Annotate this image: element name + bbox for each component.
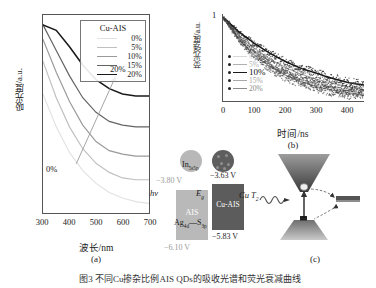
- legend-swatch-icon: [233, 64, 247, 65]
- absorption-curve-0pct: [43, 94, 149, 203]
- decay-data-point: [331, 74, 332, 75]
- decay-data-point: [227, 22, 228, 23]
- decay-data-point: [329, 81, 330, 82]
- decay-data-point: [279, 56, 280, 57]
- decay-data-point: [251, 46, 252, 47]
- decay-data-point: [319, 89, 320, 90]
- decay-data-point: [309, 74, 310, 75]
- band-gap-index: g: [201, 194, 204, 200]
- decay-data-point: [340, 90, 341, 91]
- decay-data-point: [311, 81, 312, 82]
- decay-data-point: [337, 92, 338, 93]
- decay-data-point: [248, 49, 249, 50]
- decay-data-point: [327, 88, 328, 89]
- legend-swatch-icon: [233, 72, 247, 73]
- decay-data-point: [236, 36, 237, 37]
- decay-data-point: [358, 93, 359, 94]
- decay-data-point: [285, 79, 286, 80]
- decay-data-point: [326, 77, 327, 78]
- decay-data-point: [332, 94, 333, 95]
- decay-data-point: [278, 62, 279, 63]
- decay-data-point: [293, 70, 294, 71]
- decay-data-point: [355, 98, 356, 99]
- decay-data-point: [362, 86, 363, 87]
- decay-data-point: [333, 88, 334, 89]
- decay-data-point: [319, 73, 320, 74]
- panel-a-xtick-1: 400: [63, 217, 76, 227]
- panel-c-tag: (c): [254, 254, 376, 264]
- decay-data-point: [244, 40, 245, 41]
- panel-a-legend-item: 0%: [84, 34, 142, 43]
- decay-data-point: [356, 79, 357, 80]
- decay-data-point: [301, 76, 302, 77]
- decay-data-point: [349, 94, 350, 95]
- decay-data-point: [330, 86, 331, 87]
- legend-swatch-icon: [97, 74, 117, 75]
- decay-data-point: [245, 45, 246, 46]
- ais-homo-value: −6.10 V: [164, 243, 190, 252]
- decay-data-point: [298, 85, 299, 86]
- decay-data-point: [362, 95, 363, 96]
- decay-data-point: [336, 90, 337, 91]
- decay-data-point: [293, 79, 294, 80]
- panel-a-annotation-0: 0%: [46, 164, 57, 174]
- panel-a-xlabel: 波长/nm: [42, 240, 150, 254]
- decay-data-point: [315, 73, 316, 74]
- decay-data-point: [282, 75, 283, 76]
- decay-data-point: [249, 39, 250, 40]
- panel-b-xtick-4: 400: [341, 105, 354, 115]
- decay-data-point: [316, 85, 317, 86]
- band-trap-label: Cu T2: [239, 190, 259, 202]
- decay-data-point: [355, 88, 356, 89]
- decay-data-point: [346, 94, 347, 95]
- decay-data-point: [361, 81, 362, 82]
- decay-data-point: [316, 71, 317, 72]
- decay-data-point: [325, 90, 326, 91]
- decay-data-point: [291, 66, 292, 67]
- decay-data-point: [291, 60, 292, 61]
- decay-data-point: [294, 65, 295, 66]
- legend-swatch-icon: [97, 47, 117, 48]
- decay-data-point: [304, 71, 305, 72]
- decay-data-point: [297, 79, 298, 80]
- decay-data-point: [290, 80, 291, 81]
- decay-data-point: [320, 75, 321, 76]
- decay-data-point: [304, 77, 305, 78]
- decay-data-point: [286, 64, 287, 65]
- decay-data-point: [249, 42, 250, 43]
- decay-data-point: [235, 30, 236, 31]
- decay-data-point: [288, 69, 289, 70]
- decay-data-point: [252, 40, 253, 41]
- band-trap-index: 2: [256, 196, 259, 202]
- decay-data-point: [307, 83, 308, 84]
- panel-a-xtick-3: 600: [117, 217, 130, 227]
- decay-data-point: [359, 90, 360, 91]
- decay-data-point: [358, 92, 359, 93]
- decay-data-point: [231, 27, 232, 28]
- decay-data-point: [233, 32, 234, 33]
- decay-data-point: [342, 84, 343, 85]
- decay-data-point: [285, 64, 286, 65]
- decay-data-point: [340, 93, 341, 94]
- decay-data-point: [299, 71, 300, 72]
- decay-data-point: [316, 82, 317, 83]
- decay-data-point: [333, 89, 334, 90]
- decay-data-point: [315, 81, 316, 82]
- decay-data-point: [277, 69, 278, 70]
- decay-data-point: [314, 72, 315, 73]
- decay-data-point: [297, 66, 298, 67]
- decay-data-point: [240, 38, 241, 39]
- decay-data-point: [232, 31, 233, 32]
- decay-data-point: [242, 42, 243, 43]
- decay-data-point: [246, 43, 247, 44]
- decay-data-point: [240, 42, 241, 43]
- decay-data-point: [357, 83, 358, 84]
- decay-data-point: [316, 89, 317, 90]
- decay-data-point: [228, 21, 229, 22]
- legend-swatch-icon: [97, 38, 117, 39]
- decay-data-point: [336, 77, 337, 78]
- decay-data-point: [324, 77, 325, 78]
- decay-data-point: [347, 96, 348, 97]
- decay-data-point: [301, 66, 302, 67]
- decay-data-point: [306, 66, 307, 67]
